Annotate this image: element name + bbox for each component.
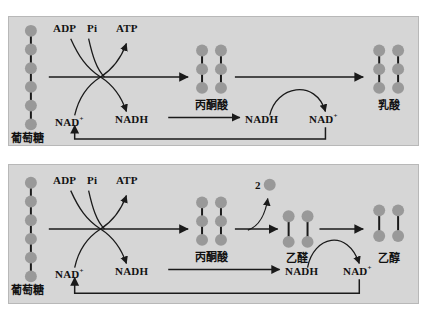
nadh-output-curve: [101, 229, 127, 263]
label-pyruvate: 丙酮酸: [195, 252, 229, 263]
label-pyruvate: 丙酮酸: [195, 100, 229, 111]
adp-input-curve: [71, 191, 101, 229]
label-nadh-left: NADH: [115, 114, 148, 125]
label-ethanol: 乙醇: [378, 253, 400, 264]
pyruvate-molecule: [196, 197, 227, 246]
pyruvate-molecule: [196, 45, 227, 94]
co2-release-arrow: [248, 199, 268, 231]
label-lactate: 乳酸: [378, 100, 400, 111]
fermentation-diagram: ADP Pi ATP NAD+ NADH 丙酮酸 NADH NAD+ 葡萄糖 乳…: [0, 0, 427, 315]
label-pi: Pi: [87, 175, 97, 186]
lactic-acid-fermentation-panel: ADP Pi ATP NAD+ NADH 丙酮酸 NADH NAD+ 葡萄糖 乳…: [8, 16, 419, 146]
nad-input-curve: [75, 77, 101, 115]
nad-input-curve: [75, 229, 101, 267]
label-atp: ATP: [116, 175, 138, 186]
glucose-molecule: [25, 177, 37, 282]
label-glucose: 葡萄糖: [11, 285, 45, 296]
nadh-to-nad-arc: [270, 90, 326, 116]
label-glucose: 葡萄糖: [11, 133, 45, 144]
label-pi: Pi: [87, 23, 97, 34]
nad-recycle-path: [75, 277, 360, 293]
label-co2-count: 2: [255, 180, 261, 191]
alcoholic-fermentation-panel: ADP Pi ATP 2 NAD+ NADH 丙酮酸 乙醛 NADH NAD+ …: [8, 164, 419, 304]
label-nadh-right: NADH: [245, 114, 278, 125]
co2-molecule: [264, 179, 276, 191]
label-nad-left: NAD+: [55, 117, 84, 128]
ethanol-molecule: [373, 204, 404, 241]
label-nadh-right: NADH: [285, 266, 318, 277]
label-nad-left: NAD+: [55, 269, 84, 280]
lactate-molecule: [373, 45, 404, 94]
label-nadh-left: NADH: [115, 266, 148, 277]
label-nad-right: NAD+: [309, 114, 338, 125]
label-atp: ATP: [116, 23, 138, 34]
atp-output-curve: [101, 196, 127, 230]
glucose-molecule: [25, 25, 37, 130]
acetaldehyde-molecule: [283, 210, 314, 247]
label-acetaldehyde: 乙醛: [286, 253, 308, 264]
atp-output-curve: [101, 44, 127, 77]
pi-input-curve: [89, 39, 105, 77]
adp-input-curve: [71, 39, 101, 77]
nad-recycle-path: [75, 125, 326, 139]
nadh-to-nad-arc: [308, 240, 360, 267]
label-adp: ADP: [53, 175, 76, 186]
pi-input-curve: [89, 191, 105, 229]
label-nad-right: NAD+: [343, 266, 372, 277]
label-adp: ADP: [53, 23, 76, 34]
nadh-output-curve: [101, 77, 127, 111]
